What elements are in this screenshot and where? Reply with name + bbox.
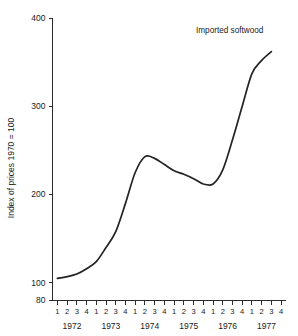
x-quarter-label: 2: [65, 307, 69, 316]
x-quarter-label: 1: [55, 307, 59, 316]
x-quarter-label: 3: [114, 307, 118, 316]
y-tick-label: 400: [31, 13, 45, 23]
x-quarter-label: 2: [143, 307, 147, 316]
x-axis-ticks: [57, 301, 281, 305]
x-quarter-label: 1: [133, 307, 137, 316]
x-year-label: 1976: [218, 321, 237, 331]
annotation-group: Imported softwood: [196, 26, 264, 35]
x-year-label: 1974: [140, 321, 159, 331]
x-year-label: 1973: [101, 321, 120, 331]
x-quarter-label: 4: [240, 307, 244, 316]
y-tick-label: 100: [31, 278, 45, 288]
x-quarter-label: 2: [260, 307, 264, 316]
x-quarter-label: 1: [94, 307, 98, 316]
y-axis-title: Index of prices 1970 = 100: [6, 118, 16, 219]
x-quarter-label: 2: [182, 307, 186, 316]
y-axis-tick-labels: 80100200300400: [31, 13, 45, 306]
x-axis-year-labels: 197219731974197519761977: [62, 321, 276, 331]
x-year-label: 1977: [257, 321, 276, 331]
x-year-label: 1975: [179, 321, 198, 331]
x-quarter-label: 4: [84, 307, 88, 316]
x-quarter-label: 3: [230, 307, 234, 316]
x-quarter-label: 4: [162, 307, 166, 316]
x-quarter-label: 2: [104, 307, 108, 316]
x-quarter-label: 3: [191, 307, 195, 316]
x-quarter-label: 1: [211, 307, 215, 316]
x-year-label: 1972: [62, 321, 81, 331]
x-quarter-label: 4: [279, 307, 283, 316]
x-quarter-label: 1: [172, 307, 176, 316]
y-tick-label: 200: [31, 189, 45, 199]
x-quarter-label: 2: [221, 307, 225, 316]
y-tick-label: 300: [31, 101, 45, 111]
x-quarter-label: 3: [269, 307, 273, 316]
chart-container: 80100200300400 Index of prices 1970 = 10…: [0, 0, 298, 336]
x-quarter-label: 3: [153, 307, 157, 316]
y-axis-group: 80100200300400 Index of prices 1970 = 10…: [6, 13, 53, 306]
x-quarter-label: 4: [201, 307, 205, 316]
series-line-imported-softwood: [57, 52, 271, 279]
price-index-line-chart: 80100200300400 Index of prices 1970 = 10…: [0, 0, 298, 336]
series-group: [57, 52, 271, 279]
y-axis-ticks: [49, 18, 53, 301]
series-annotation-imported-softwood: Imported softwood: [196, 26, 264, 35]
x-quarter-label: 3: [75, 307, 79, 316]
x-quarter-label: 4: [123, 307, 127, 316]
x-quarter-label: 1: [250, 307, 254, 316]
x-axis-quarter-labels: 123412341234123412341234: [55, 307, 283, 316]
y-tick-label: 80: [36, 295, 46, 305]
x-axis-group: 123412341234123412341234 197219731974197…: [53, 301, 287, 331]
